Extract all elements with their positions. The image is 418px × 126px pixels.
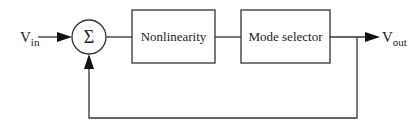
mode-selector-label: Mode selector: [248, 29, 323, 44]
output-arrowhead: [365, 32, 380, 42]
input-label: Vin: [20, 29, 40, 48]
feedback-arrowhead: [84, 54, 94, 69]
block-diagram: Vin Σ Nonlinearity Mode selector Vout: [0, 0, 418, 126]
sigma-symbol: Σ: [84, 27, 94, 47]
output-label: Vout: [382, 29, 407, 48]
nonlinearity-label: Nonlinearity: [141, 29, 207, 44]
input-arrowhead: [57, 32, 72, 42]
